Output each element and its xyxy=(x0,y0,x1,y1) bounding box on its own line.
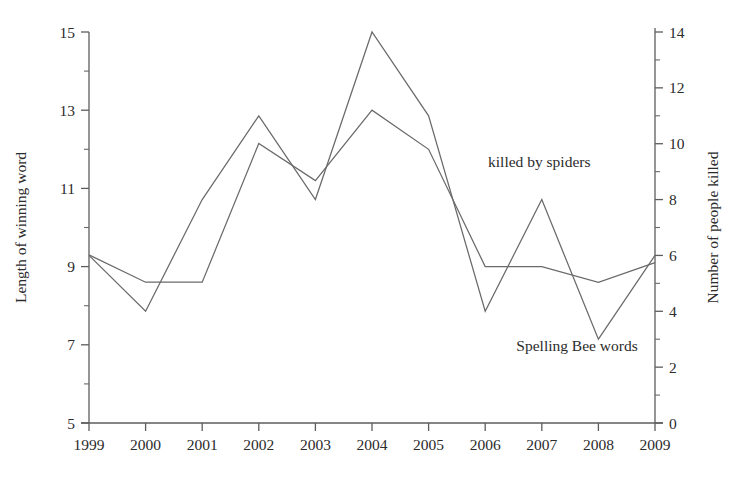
right-axis-group: 02468101214 Number of people killed xyxy=(655,24,721,432)
x-tick-label: 2008 xyxy=(583,436,614,453)
right-tick-label: 6 xyxy=(669,247,677,264)
series-annotation-killed-by-spiders: killed by spiders xyxy=(488,153,590,170)
left-tick-label: 5 xyxy=(67,415,75,432)
right-axis-ticks xyxy=(655,32,663,423)
x-tick-label: 2004 xyxy=(357,436,388,453)
x-tick-label: 2007 xyxy=(526,436,557,453)
left-axis-ticks xyxy=(81,32,89,423)
x-tick-label: 2009 xyxy=(640,436,671,453)
left-tick-label: 7 xyxy=(67,336,75,353)
series-layer xyxy=(89,32,655,339)
right-tick-label: 2 xyxy=(669,359,677,376)
left-tick-label: 15 xyxy=(60,24,76,41)
left-axis-group: 579111315 Length of winning word xyxy=(12,24,89,432)
dual-axis-line-chart: 579111315 Length of winning word 0246810… xyxy=(0,0,739,478)
x-tick-label: 2001 xyxy=(187,436,218,453)
x-tick-label: 2006 xyxy=(470,436,501,453)
right-tick-label: 4 xyxy=(669,303,677,320)
right-tick-label: 14 xyxy=(669,24,685,41)
x-tick-label: 1999 xyxy=(74,436,105,453)
right-axis-title: Number of people killed xyxy=(704,151,721,303)
x-tick-label: 2000 xyxy=(130,436,161,453)
series-annotation-spelling-bee-words: Spelling Bee words xyxy=(516,337,637,354)
x-axis-tick-labels: 1999200020012002200320042005200620072008… xyxy=(74,436,671,453)
right-axis-tick-labels: 02468101214 xyxy=(669,24,685,432)
x-tick-label: 2005 xyxy=(413,436,444,453)
x-tick-label: 2003 xyxy=(300,436,331,453)
x-tick-label: 2002 xyxy=(243,436,274,453)
chart-container: 579111315 Length of winning word 0246810… xyxy=(0,0,739,478)
series-line-killed-by-spiders xyxy=(89,32,655,339)
x-axis-group: 1999200020012002200320042005200620072008… xyxy=(74,423,671,453)
x-axis-ticks xyxy=(89,423,655,431)
right-tick-label: 10 xyxy=(669,135,685,152)
left-tick-label: 13 xyxy=(60,102,76,119)
left-axis-title: Length of winning word xyxy=(12,152,29,303)
left-tick-label: 9 xyxy=(67,258,75,275)
right-tick-label: 12 xyxy=(669,79,685,96)
right-tick-label: 8 xyxy=(669,191,677,208)
right-tick-label: 0 xyxy=(669,415,677,432)
left-axis-tick-labels: 579111315 xyxy=(60,24,76,432)
left-tick-label: 11 xyxy=(60,180,75,197)
